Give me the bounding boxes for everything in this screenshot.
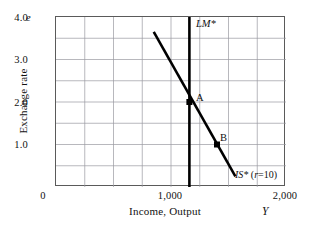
x-axis-symbol: Y	[262, 205, 268, 217]
is-curve-label-rate-value: =10	[258, 169, 274, 180]
x-tick-label-0: 0	[13, 190, 73, 201]
is-curve-label: IS* (r=10)	[235, 169, 277, 180]
x-axis-title: Income, Output	[95, 205, 235, 217]
y-tick-label-1: 1.0	[0, 140, 28, 150]
point-a-marker	[186, 99, 192, 105]
y-tick-label-2: 2.0	[0, 98, 28, 108]
y-tick-label-4: 4.0	[0, 13, 28, 23]
x-tick-label-1000: 1,000	[140, 190, 200, 201]
x-tick-label-2000: 2,000	[255, 190, 315, 201]
is-curve-label-paren-close: )	[274, 169, 277, 180]
point-a-label: A	[196, 93, 204, 103]
lm-curve-label: LM*	[196, 18, 216, 29]
chart-figure: e Exchange rate 4.0 3.0 2.0 1.0 0 1,000 …	[0, 0, 316, 235]
is-curve-label-name: IS*	[235, 169, 248, 180]
point-b-label: B	[220, 133, 227, 143]
is-curve	[154, 32, 236, 177]
y-tick-label-3: 3.0	[0, 55, 28, 65]
plot-svg	[56, 17, 286, 187]
plot-area	[55, 16, 285, 186]
